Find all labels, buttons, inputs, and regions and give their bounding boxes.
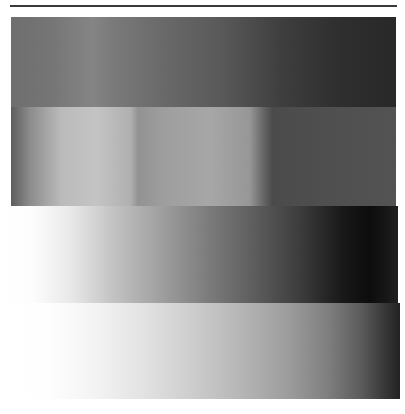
gradient-band-4 [0, 303, 400, 399]
gradient-test-pattern-canvas [0, 0, 405, 414]
gradient-band-1 [11, 17, 396, 107]
grain-overlay-1 [11, 17, 396, 107]
gradient-band-3 [0, 206, 398, 303]
grain-overlay-3 [0, 206, 398, 303]
grain-overlay-2 [11, 107, 396, 206]
gradient-band-2 [11, 107, 396, 206]
grain-overlay-4 [0, 303, 400, 399]
top-horizontal-rule [10, 5, 397, 7]
